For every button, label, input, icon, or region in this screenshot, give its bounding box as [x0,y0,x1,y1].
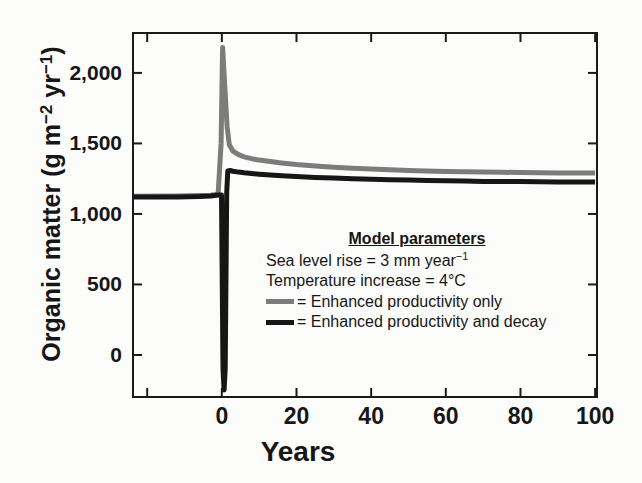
y-tick-label: 0 [110,343,122,366]
legend-param-sea-level-rise: Sea level rise = 3 mm year−1 [266,251,568,272]
y-tick-label: 1,000 [69,202,122,225]
x-tick-label: 20 [284,403,310,429]
x-tick-label: 60 [433,403,459,429]
gray-line-swatch [266,299,294,304]
x-tick-label: 0 [215,403,228,429]
y-tick-label: 1,500 [69,131,122,154]
figure-container: 02040608010005001,0001,5002,000YearsOrga… [0,0,642,483]
x-tick-label: 40 [358,403,384,429]
legend-entry-productivity-and-decay: = Enhanced productivity and decay [266,312,568,333]
y-axis-title: Organic matter (g m−2 yr−1) [37,46,65,361]
y-tick-label: 2,000 [69,61,122,84]
legend-title: Model parameters [266,229,568,250]
x-axis-title: Years [261,436,336,467]
x-tick-label: 100 [576,403,614,429]
plot-border [133,33,597,397]
series-line-productivity-only [133,48,595,197]
legend-box: Model parameters Sea level rise = 3 mm y… [266,229,568,333]
legend-entry-productivity-only: = Enhanced productivity only [266,292,568,313]
legend-param-temperature: Temperature increase = 4°C [266,271,568,292]
legend-entry-label: = Enhanced productivity only [297,292,502,313]
legend-entry-label: = Enhanced productivity and decay [297,312,547,333]
y-tick-label: 500 [87,272,122,295]
black-line-swatch [266,320,294,325]
x-tick-label: 80 [508,403,534,429]
